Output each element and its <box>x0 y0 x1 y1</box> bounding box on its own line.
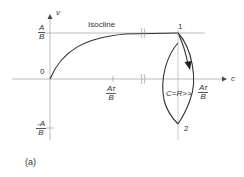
x-tick-right-a-tau-over-b: Aτ B <box>198 84 208 101</box>
x-tick-a-tau-over-b: Aτ B <box>106 85 116 102</box>
trajectory-left <box>163 43 178 124</box>
y-axis-arrow-icon <box>48 14 53 19</box>
x-axis-label: c <box>231 75 235 83</box>
panel-label: (a) <box>25 158 36 166</box>
trajectory-right <box>178 33 194 124</box>
y-tick-a-over-b: A B <box>38 24 45 41</box>
isocline-curve <box>50 33 178 79</box>
c-equals-r-label: C=R>> <box>166 90 192 98</box>
y-axis-label: v <box>56 9 60 17</box>
y-tick-neg-a-over-b: -A B <box>36 120 46 137</box>
isocline-label: Isocline <box>88 21 115 29</box>
x-axis-arrow-icon <box>222 77 227 82</box>
y-tick-origin: 0 <box>40 68 44 76</box>
point-2-label: 2 <box>184 125 188 133</box>
flow-arrowhead-icon <box>185 61 192 70</box>
point-1-label: 1 <box>178 23 182 31</box>
